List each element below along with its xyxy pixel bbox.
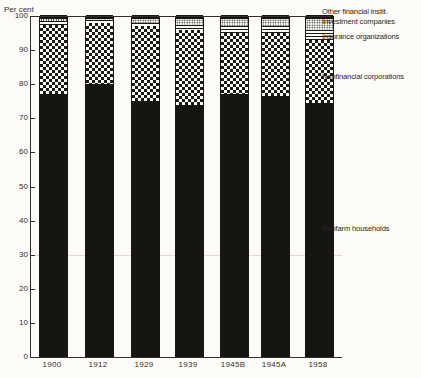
- y-tick-40: [31, 221, 35, 222]
- bar-1945b-nonfinancial-corporations: [221, 32, 248, 94]
- x-tick-label-1929: 1929: [122, 360, 166, 370]
- y-tick-80: [31, 84, 35, 85]
- bar-1939-nonfinancial-corporations: [176, 29, 203, 105]
- y-tick-label-30: 30: [2, 250, 28, 260]
- bar-1900-nonfarm-households: [40, 94, 67, 357]
- y-tick-label-80: 80: [2, 79, 28, 89]
- y-tick-label-90: 90: [2, 45, 28, 55]
- legend-label-insurance-organizations: Insurance organizations: [322, 32, 399, 41]
- bar-1929-nonfarm-households: [132, 101, 159, 357]
- bar-1945b-investment-companies: [221, 18, 248, 26]
- x-tick-label-1945b: 1945B: [211, 360, 255, 370]
- bar-1900-nonfinancial-corporations: [40, 24, 67, 95]
- bar-1939-nonfarm-households: [176, 105, 203, 357]
- y-tick-label-20: 20: [2, 284, 28, 294]
- y-tick-label-60: 60: [2, 147, 28, 157]
- y-tick-label-40: 40: [2, 216, 28, 226]
- x-tick-label-1945a: 1945A: [252, 360, 296, 370]
- stacked-bar-chart: Per cent 0102030405060708090100190019121…: [0, 0, 421, 378]
- legend-label-nonfinancial-corporations: Nonfinancial corporations: [322, 72, 404, 81]
- x-tick-label-1958: 1958: [296, 360, 340, 370]
- bar-1900: [39, 16, 68, 358]
- bar-1912: [85, 16, 114, 358]
- y-tick-30: [31, 255, 35, 256]
- y-tick-90: [31, 50, 35, 51]
- bar-1945b: [220, 16, 249, 358]
- bar-1945a: [261, 16, 290, 358]
- bar-1929-nonfinancial-corporations: [132, 25, 159, 101]
- bar-1929: [131, 16, 160, 358]
- y-tick-label-10: 10: [2, 318, 28, 328]
- y-tick-label-100: 100: [2, 11, 28, 21]
- y-tick-70: [31, 118, 35, 119]
- y-tick-label-70: 70: [2, 113, 28, 123]
- y-tick-60: [31, 152, 35, 153]
- y-axis-line: [30, 16, 31, 358]
- legend-label-investment-companies: Investment companies: [322, 17, 395, 26]
- bar-1945b-nonfarm-households: [221, 94, 248, 357]
- x-tick-label-1939: 1939: [166, 360, 210, 370]
- bar-1945a-nonfinancial-corporations: [262, 32, 289, 96]
- y-tick-label-0: 0: [2, 352, 28, 362]
- legend-label-other-financial-instit: Other financial instit.: [322, 7, 387, 16]
- x-axis-line: [30, 357, 342, 358]
- top-border-line: [30, 16, 331, 17]
- y-tick-20: [31, 289, 35, 290]
- y-tick-50: [31, 187, 35, 188]
- bar-1958-nonfinancial-corporations: [306, 39, 333, 103]
- bar-1945a-nonfarm-households: [262, 96, 289, 357]
- y-tick-10: [31, 323, 35, 324]
- y-tick-label-50: 50: [2, 182, 28, 192]
- bar-1912-nonfarm-households: [86, 84, 113, 357]
- x-tick-label-1900: 1900: [30, 360, 74, 370]
- legend-label-nonfarm-households: Nonfarm households: [322, 224, 389, 233]
- bar-1912-nonfinancial-corporations: [86, 22, 113, 84]
- bar-1939: [175, 16, 204, 358]
- x-tick-label-1912: 1912: [76, 360, 120, 370]
- bar-1958: [305, 16, 334, 358]
- bar-1945b-insurance-organizations: [221, 25, 248, 33]
- bar-1945a-insurance-organizations: [262, 25, 289, 33]
- bar-1945a-investment-companies: [262, 18, 289, 26]
